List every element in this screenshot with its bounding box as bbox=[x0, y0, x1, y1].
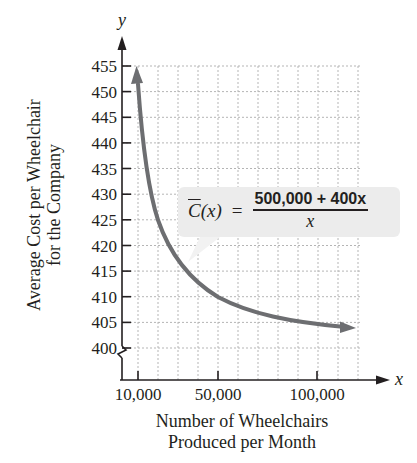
y-axis-var-label: y bbox=[116, 10, 126, 30]
x-axis-title-line2: Produced per Month bbox=[168, 432, 316, 452]
y-tick-label: 455 bbox=[92, 57, 118, 76]
y-tick-label: 425 bbox=[92, 211, 118, 230]
formula-pointer bbox=[188, 237, 220, 262]
y-tick-label: 400 bbox=[92, 339, 118, 358]
y-tick-label: 440 bbox=[92, 134, 118, 153]
y-axis-ticks bbox=[122, 66, 131, 348]
y-tick-label: 420 bbox=[92, 237, 118, 256]
x-axis bbox=[120, 371, 390, 385]
x-axis-var-label: x bbox=[394, 369, 403, 389]
x-axis-title-line1: Number of Wheelchairs bbox=[156, 411, 329, 431]
curve-arrow-top bbox=[131, 66, 143, 84]
y-tick-label: 435 bbox=[92, 160, 118, 179]
y-tick-label: 415 bbox=[92, 262, 118, 281]
y-tick-label: 445 bbox=[92, 108, 118, 127]
y-tick-labels: 455 450 445 440 435 430 425 420 415 410 … bbox=[92, 57, 118, 358]
formula-lhs: C(x) bbox=[188, 200, 222, 222]
y-tick-label: 405 bbox=[92, 313, 118, 332]
formula-equals: = bbox=[232, 200, 243, 222]
x-tick-label: 100,000 bbox=[289, 385, 344, 404]
y-axis-title-line1: Average Cost per Wheelchair bbox=[24, 99, 44, 311]
y-tick-label: 430 bbox=[92, 185, 118, 204]
y-axis-arrow bbox=[118, 36, 127, 50]
formula: C(x) = 500,000 + 400x x bbox=[188, 190, 368, 231]
x-tick-label: 10,000 bbox=[115, 385, 162, 404]
formula-numerator: 500,000 + 400x bbox=[253, 190, 369, 211]
y-axis bbox=[118, 46, 126, 380]
curve-arrow-right bbox=[340, 322, 356, 334]
formula-fraction: 500,000 + 400x x bbox=[253, 190, 369, 231]
x-axis-arrow bbox=[376, 376, 390, 385]
x-tick-label: 50,000 bbox=[195, 385, 242, 404]
formula-denominator: x bbox=[306, 211, 314, 231]
y-tick-label: 450 bbox=[92, 83, 118, 102]
y-axis-title-line2: for the Company bbox=[44, 144, 64, 266]
x-tick-labels: 10,000 50,000 100,000 bbox=[115, 385, 345, 404]
y-tick-label: 410 bbox=[92, 288, 118, 307]
